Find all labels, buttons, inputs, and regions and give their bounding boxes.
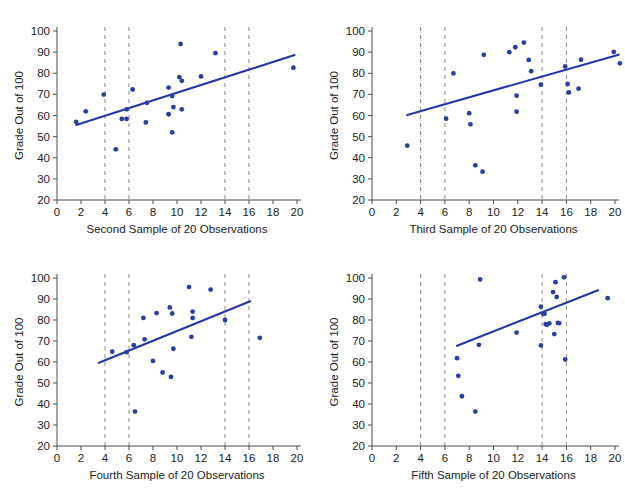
data-point bbox=[538, 304, 543, 309]
data-point bbox=[179, 107, 184, 112]
data-point bbox=[557, 321, 562, 326]
data-point bbox=[167, 305, 172, 310]
y-tick-label-20: 20 bbox=[37, 440, 50, 452]
y-tick-label-50: 50 bbox=[352, 377, 365, 389]
y-axis-title: Grade Out of 100 bbox=[13, 318, 25, 407]
data-point bbox=[562, 275, 567, 280]
x-tick-label-0: 0 bbox=[369, 452, 375, 464]
scatter-plot-1: 203040506070809010002468101214161820Thir… bbox=[320, 0, 625, 250]
scatter-panel-2: 203040506070809010002468101214161820Four… bbox=[0, 250, 320, 494]
x-tick-label-2: 2 bbox=[393, 206, 399, 218]
data-point bbox=[124, 116, 129, 121]
data-point bbox=[617, 61, 622, 66]
x-tick-label-20: 20 bbox=[609, 452, 622, 464]
data-point bbox=[143, 120, 148, 125]
data-point bbox=[119, 116, 124, 121]
x-tick-label-20: 20 bbox=[291, 206, 304, 218]
y-tick-label-50: 50 bbox=[37, 377, 50, 389]
y-tick-label-70: 70 bbox=[37, 335, 50, 347]
data-point bbox=[477, 342, 482, 347]
data-point bbox=[291, 65, 296, 70]
data-point bbox=[151, 359, 156, 364]
y-axis-title: Grade Out of 100 bbox=[13, 71, 25, 160]
y-tick-label-70: 70 bbox=[352, 88, 365, 100]
x-tick-label-18: 18 bbox=[584, 206, 597, 218]
data-point bbox=[552, 332, 557, 337]
data-point bbox=[473, 409, 478, 414]
x-tick-label-10: 10 bbox=[171, 206, 184, 218]
y-tick-label-40: 40 bbox=[352, 398, 365, 410]
x-tick-label-4: 4 bbox=[102, 452, 109, 464]
data-point bbox=[605, 296, 610, 301]
regression-line bbox=[407, 55, 618, 115]
data-point bbox=[460, 394, 465, 399]
regression-line bbox=[99, 301, 250, 363]
data-point bbox=[110, 349, 115, 354]
y-tick-label-100: 100 bbox=[31, 272, 50, 284]
x-tick-label-10: 10 bbox=[171, 452, 184, 464]
data-point bbox=[170, 130, 175, 135]
data-point bbox=[223, 318, 228, 323]
x-tick-label-0: 0 bbox=[369, 206, 375, 218]
y-tick-label-80: 80 bbox=[352, 67, 365, 79]
data-point bbox=[170, 94, 175, 99]
data-point bbox=[170, 311, 175, 316]
data-point bbox=[171, 346, 176, 351]
data-point bbox=[551, 290, 556, 295]
y-tick-label-30: 30 bbox=[37, 173, 50, 185]
y-tick-label-70: 70 bbox=[352, 335, 365, 347]
data-point bbox=[514, 330, 519, 335]
data-point bbox=[213, 51, 218, 56]
data-point bbox=[563, 64, 568, 69]
x-tick-label-8: 8 bbox=[150, 206, 156, 218]
data-point bbox=[74, 119, 79, 124]
regression-line bbox=[76, 55, 294, 125]
data-point bbox=[538, 343, 543, 348]
data-point bbox=[565, 82, 570, 87]
x-tick-label-12: 12 bbox=[511, 206, 524, 218]
data-point bbox=[166, 85, 171, 90]
y-tick-label-50: 50 bbox=[352, 131, 365, 143]
y-tick-label-80: 80 bbox=[352, 314, 365, 326]
data-point bbox=[507, 50, 512, 55]
scatter-plot-2: 203040506070809010002468101214161820Four… bbox=[0, 250, 320, 494]
scatter-panel-1: 203040506070809010002468101214161820Thir… bbox=[320, 0, 625, 250]
y-axis-title: Grade Out of 100 bbox=[328, 71, 340, 160]
x-tick-label-16: 16 bbox=[560, 206, 573, 218]
y-axis-title: Grade Out of 100 bbox=[328, 318, 340, 407]
y-tick-label-30: 30 bbox=[37, 419, 50, 431]
axis-spine bbox=[372, 274, 619, 446]
y-tick-label-100: 100 bbox=[346, 272, 365, 284]
data-point bbox=[133, 409, 138, 414]
data-point bbox=[113, 147, 118, 152]
y-tick-label-50: 50 bbox=[37, 131, 50, 143]
data-point bbox=[405, 143, 410, 148]
x-tick-label-16: 16 bbox=[243, 452, 256, 464]
x-tick-label-12: 12 bbox=[195, 452, 208, 464]
y-tick-label-40: 40 bbox=[37, 398, 50, 410]
x-tick-label-4: 4 bbox=[417, 452, 424, 464]
y-tick-label-70: 70 bbox=[37, 88, 50, 100]
data-point bbox=[456, 373, 461, 378]
x-tick-label-18: 18 bbox=[584, 452, 597, 464]
x-tick-label-12: 12 bbox=[195, 206, 208, 218]
data-point bbox=[131, 343, 136, 348]
data-point bbox=[257, 335, 262, 340]
x-tick-label-14: 14 bbox=[219, 206, 232, 218]
x-axis-title: Fifth Sample of 20 Observations bbox=[411, 469, 576, 481]
data-point bbox=[566, 90, 571, 95]
y-tick-label-90: 90 bbox=[37, 293, 50, 305]
data-point bbox=[444, 116, 449, 121]
data-point bbox=[526, 58, 531, 63]
scatter-panel-0: 203040506070809010002468101214161820Seco… bbox=[0, 0, 320, 250]
data-point bbox=[189, 334, 194, 339]
data-point bbox=[124, 107, 129, 112]
data-point bbox=[187, 285, 192, 290]
data-point bbox=[179, 78, 184, 83]
data-point bbox=[480, 169, 485, 174]
data-point bbox=[478, 277, 483, 282]
x-tick-label-14: 14 bbox=[219, 452, 232, 464]
x-tick-label-12: 12 bbox=[511, 452, 524, 464]
data-point bbox=[542, 311, 547, 316]
y-tick-label-100: 100 bbox=[346, 25, 365, 37]
